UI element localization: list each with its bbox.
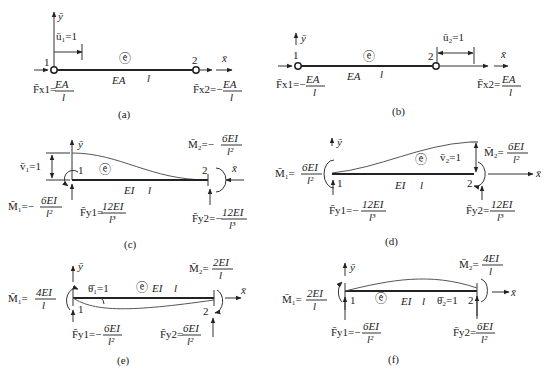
moment-arc-node1 [67,289,78,310]
force1-numerator: EA [305,73,320,85]
moment1-label: M̄₁= [8,292,28,304]
property-label: EI [394,179,407,191]
moment-arc-node2 [215,290,223,313]
moment1-label: M̄₁=− [8,200,34,212]
moment2-denominator: l² [227,145,234,157]
node-2-label: 2 [203,305,209,317]
node-1-label: 1 [78,164,84,176]
element-symbol: ⓔ [136,281,148,295]
node-2-label: 2 [428,50,434,62]
x-axis-label: x̄ [221,52,227,64]
x-axis-label: x̄ [240,284,246,296]
force2-numerator: EA [222,78,237,90]
force1-label: F̄x1= [33,83,56,95]
force2-denominator: l [509,86,512,98]
panel-a: ȳ ū₁=1 x̄ 1 2 ⓔ EA l F̄x1= EA l F̄x2=− E… [33,10,242,121]
moment1-denominator: l² [46,207,53,219]
caption-d: (d) [385,235,398,248]
node-1 [51,67,57,73]
length-label: l [422,295,425,307]
force2-denominator: l [230,91,233,103]
length-label: l [380,68,383,80]
node-2-label: 2 [192,54,198,66]
moment2-denominator: l² [513,153,520,165]
node-2-label: 2 [468,294,474,306]
node-2-label: 2 [467,177,473,189]
y-axis-label: ȳ [77,138,84,150]
element-symbol: ⓔ [415,153,427,167]
force2-denominator: l³ [229,219,236,231]
moment1-numerator: 6EI [41,194,58,206]
force1-denominator: l² [367,333,374,345]
moment-arc-node1 [64,170,78,186]
force1-label: F̄y1= [80,206,103,218]
moment2-label: M̄₂= [484,146,504,158]
deflected-shape [345,279,477,291]
moment2-label: M̄₂= [459,258,479,270]
node-1-label: 1 [44,56,50,68]
deflected-shape [72,153,208,180]
property-label: EI [151,282,164,294]
x-axis-label: x̄ [500,48,506,60]
moment1-denominator: l² [307,174,314,186]
displacement-label: ū₂=1 [443,31,464,43]
moment1-label: M̄₁= [282,293,302,305]
caption-b: (b) [392,105,405,118]
moment-arc-node2 [216,168,226,192]
y-axis-label: ȳ [336,136,343,148]
displacement-label: θ̄₁=1 [88,282,109,294]
force1-denominator: l³ [369,211,376,223]
moment1-numerator: 4EI [36,286,53,298]
y-axis-label: ȳ [300,32,307,44]
caption-f: (f) [388,353,399,366]
panel-e: ȳ θ̄₁=1 x̄ 1 2 ⓔ EI l M̄₁= 4EI l F̄y1=− … [8,256,246,367]
force1-label: F̄y1=− [329,204,359,216]
force1-denominator: l [62,91,65,103]
displacement-label: θ̄₂=1 [437,294,458,306]
length-label: l [147,72,150,84]
force2-label: F̄y2= [453,326,476,338]
displacement-label: ū₁=1 [56,30,77,42]
force2-denominator: l² [187,335,194,347]
force2-numerator: 6EI [183,322,200,334]
node-1-label: 1 [78,303,84,315]
node-1 [295,63,301,69]
panel-f: ȳ θ̄₂=1 x̄ 1 2 ⓔ EI l M̄₁= 2EI l F̄y1=− … [282,252,516,366]
node-2 [433,63,439,69]
panel-c: ȳ v̄₁=1 x̄ 1 2 ⓔ EI l M̄₁=− 6EI l² F̄y1=… [8,132,247,251]
displacement-label: v̄₁=1 [20,160,41,172]
force1-denominator: l³ [109,213,116,225]
panel-d: ȳ v̄₂=1 x̄ 1 2 ⓔ EI l M̄₁= 6EI l² F̄y1=−… [275,136,541,248]
moment2-numerator: 6EI [508,140,525,152]
x-axis-label: x̄ [510,286,516,298]
element-symbol: ⓔ [119,52,131,66]
force1-label: F̄y1=− [331,326,361,338]
deflected-shape [73,298,214,309]
force1-denominator: l [313,86,316,98]
y-axis-label: ȳ [77,260,84,272]
moment1-numerator: 6EI [302,161,319,173]
displacement-label: v̄₂=1 [440,151,461,163]
force2-denominator: l³ [497,211,504,223]
force2-label: F̄y2=− [192,212,222,224]
element-symbol: ⓔ [375,292,387,306]
force2-numerator: EA [501,73,516,85]
moment2-label: M̄₂=− [188,138,214,150]
moment-arc-node2 [481,279,487,302]
force1-numerator: 6EI [363,320,380,332]
force1-numerator: 12EI [102,200,125,212]
force1-numerator: 12EI [362,198,385,210]
force1-denominator: l² [108,335,115,347]
caption-e: (e) [117,354,130,367]
force2-denominator: l² [481,333,488,345]
node-1-label: 1 [337,177,343,189]
moment-arc-node1 [338,282,342,302]
caption-a: (a) [118,108,131,121]
caption-c: (c) [124,238,137,251]
moment2-denominator: l [219,269,222,281]
moment2-numerator: 2EI [213,256,230,268]
property-label: EA [111,74,126,86]
y-axis-label: ȳ [349,261,356,273]
x-axis-label: x̄ [231,162,237,174]
property-label: EA [346,70,361,82]
